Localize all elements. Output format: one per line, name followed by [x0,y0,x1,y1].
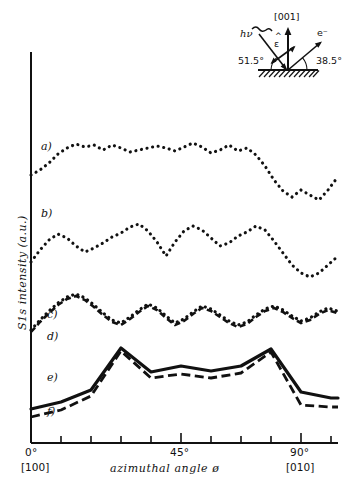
x-tick-label-0: 0° [25,446,37,458]
inset-electron-label: e⁻ [317,27,328,38]
inset-photon-wave [252,27,272,31]
direction-label-left: [100] [21,461,49,473]
curve-f [31,351,338,417]
curve-label-d: d) [47,330,58,343]
inset-photon-label: hν [240,28,253,39]
y-axis-title: S1s intensity (a.u.) [16,215,29,330]
curve-e [31,348,338,409]
x-axis-title: azimuthal angle ø [110,462,220,475]
curve-label-a: a) [41,140,52,153]
x-tick-label-45: 45° [170,446,189,458]
curve-label-b: b) [41,207,52,220]
x-tick-label-90: 90° [290,446,309,458]
curve-label-f: f) [47,405,55,418]
curve-b [31,224,337,277]
inset-surface-hatching [259,71,319,78]
xpd-azimuthal-figure: S1s intensity (a.u.) azimuthal angle ø 0… [0,0,355,482]
inset-incidence-angle: 51.5° [238,55,264,66]
inset-geometry-diagram [252,27,322,77]
inset-polarization-label: ^ ε [274,38,279,49]
curve-c [31,294,337,330]
curve-d [31,296,337,332]
direction-label-right: [010] [286,461,314,473]
curve-a [31,143,337,200]
curve-label-e: e) [47,371,58,384]
inset-emission-arc [302,58,307,70]
x-axis-ticks [31,433,331,443]
inset-normal-label: [001] [274,11,300,22]
inset-emission-angle: 38.5° [316,55,342,66]
curve-label-c: c) [47,308,57,321]
